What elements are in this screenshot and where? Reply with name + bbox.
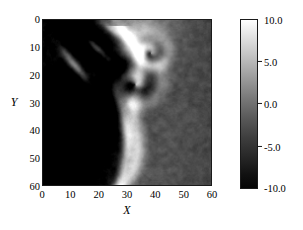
y-tick-40: 40 [14, 125, 40, 136]
y-tick-0: 0 [14, 14, 40, 25]
colorbar-tick-mark [258, 187, 262, 188]
y-tick-20: 20 [14, 69, 40, 80]
colorbar-tick-mark [258, 146, 262, 147]
x-tick-60: 60 [207, 189, 218, 200]
colorbar-gradient [240, 19, 258, 189]
x-tick-20: 20 [93, 189, 104, 200]
y-tick-10: 10 [14, 41, 40, 52]
heatmap-image [43, 20, 211, 185]
colorbar-tick-neg5: -5.0 [258, 140, 281, 152]
colorbar-tick-mark [258, 103, 262, 104]
colorbar-tick-labels: 10.0 5.0 0.0 -5.0 -10.0 [258, 19, 302, 189]
colorbar-tick-0: 0.0 [258, 98, 277, 110]
colorbar-tick-mark [258, 19, 262, 20]
colorbar-tick-5: 5.0 [258, 55, 277, 67]
x-tick-0: 0 [39, 189, 44, 200]
x-tick-30: 30 [122, 189, 133, 200]
x-tick-10: 10 [65, 189, 76, 200]
x-tick-40: 40 [150, 189, 161, 200]
y-tick-50: 50 [14, 153, 40, 164]
colorbar-tick-mark [258, 61, 262, 62]
y-tick-60: 60 [14, 181, 40, 192]
x-axis-title: X [42, 203, 212, 218]
heatmap-plot-area [42, 19, 212, 186]
colorbar-tick-neg10: -10.0 [258, 182, 286, 194]
figure-canvas: 0 10 20 30 40 50 60 0 10 20 30 40 50 60 … [0, 0, 303, 230]
y-axis-title: Y [6, 95, 22, 110]
x-tick-50: 50 [178, 189, 189, 200]
colorbar-tick-10: 10.0 [258, 14, 282, 26]
x-axis-tick-labels: 0 10 20 30 40 50 60 [42, 189, 212, 203]
